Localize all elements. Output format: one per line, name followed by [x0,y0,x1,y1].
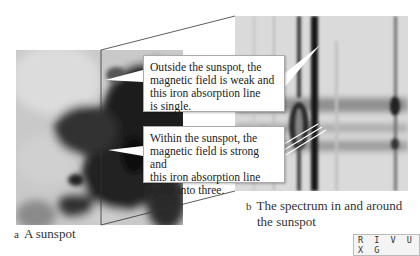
callout-line: Within the sunspot, the [150,132,278,145]
callout-line: magnetic field is weak and [150,74,278,87]
callout-within-sunspot: Within the sunspot, the magnetic field i… [143,126,285,183]
caption-panel-a: aA sunspot [14,226,76,242]
caption-text: A sunspot [24,226,76,241]
callout-2-pointer-1 [284,124,318,144]
projection-line-top [101,16,235,50]
callout-line: this iron absorption line [150,87,278,100]
caption-text: The spectrum in and around [257,198,403,213]
callout-line: this iron absorption line [150,171,278,184]
callout-outside-sunspot: Outside the sunspot, the magnetic field … [143,55,285,112]
callout-line: magnetic field is strong and [150,145,278,171]
callout-1-left-pointer [105,70,143,82]
callout-2-pointer-2 [284,127,322,150]
callout-2-pointer-3 [284,130,326,156]
callout-1-right-pointer [284,45,320,88]
callout-2-left-pointer [108,146,143,156]
callout-line: Outside the sunspot, the [150,61,278,74]
callout-line: is single. [150,100,278,113]
callout-line: splits into three. [150,184,278,197]
caption-panel-b: bThe spectrum in and around the sunspot [246,198,416,229]
wavelength-band-label: R I V U X G [353,234,420,256]
panel-letter: a [14,228,19,240]
caption-text: the sunspot [257,214,316,229]
panel-letter: b [246,200,252,212]
